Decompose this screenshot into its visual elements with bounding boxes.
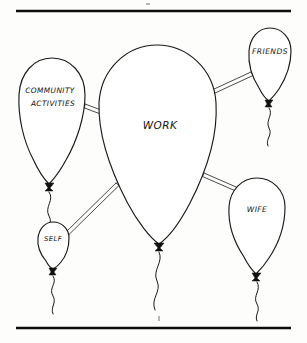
balloon-wife-outline [229,178,285,274]
figure-root: WORK COMMUNITY ACTIVITIES FRIENDS WIFE [0,0,307,343]
balloon-friends-knot [265,100,273,107]
balloon-friends-string [267,108,270,146]
balloon-self-knot [49,268,57,275]
balloon-community-outline [19,58,85,184]
balloon-wife-string [256,282,259,321]
balloon-self[interactable]: SELF [38,222,69,314]
balloon-self-label: SELF [44,235,62,243]
balloon-wife-knot [252,273,261,281]
balloon-work-outline [99,45,216,244]
balloon-friends-outline [249,28,291,101]
balloon-friends[interactable]: FRIENDS [249,28,291,146]
balloon-community-knot [45,183,54,191]
paper-speck [146,3,150,5]
connector-work-self [66,183,119,235]
balloon-wife[interactable]: WIFE [229,178,285,321]
balloon-friends-label: FRIENDS [252,47,288,56]
paper-speck [158,316,160,321]
balloon-self-outline [38,222,69,269]
balloon-community[interactable]: COMMUNITY ACTIVITIES [19,58,85,240]
balloon-wife-label: WIFE [247,205,268,214]
balloon-community-label-line1: COMMUNITY [25,86,75,95]
balloon-work-string [154,252,160,310]
balloon-work-label: WORK [143,119,178,131]
balloon-work-knot [154,243,164,251]
balloons-diagram: WORK COMMUNITY ACTIVITIES FRIENDS WIFE [0,0,307,343]
connector-work-friends [212,72,253,94]
balloon-work[interactable]: WORK [99,45,216,310]
balloon-community-label-line2: ACTIVITIES [30,99,75,108]
balloon-self-string [52,276,55,314]
